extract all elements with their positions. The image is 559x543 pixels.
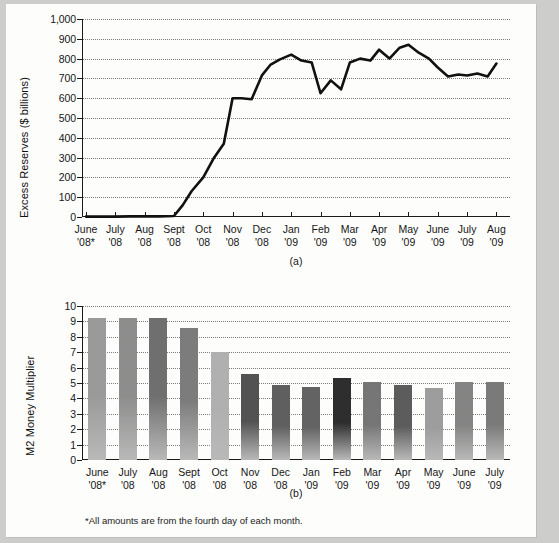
chart-panel-a: Excess Reserves ($ billions) 01002003004…	[6, 4, 536, 276]
x-tick-label: June'08*	[86, 466, 109, 491]
x-tick-label: Mar'09	[341, 223, 359, 248]
x-tick-label: June'09	[426, 223, 449, 248]
x-tick-label: Oct'08	[211, 466, 227, 491]
panel-b-x-tick-labels: June'08*July'08Aug'08Sept'08Oct'08Nov'08…	[6, 284, 536, 514]
x-tick-label: July'09	[458, 223, 477, 248]
x-tick-label: Sept'08	[178, 466, 200, 491]
x-tick-label: July'08	[119, 466, 138, 491]
x-tick-label: Nov'08	[223, 223, 242, 248]
x-tick-label: Apr'09	[371, 223, 387, 248]
figure-card: Excess Reserves ($ billions) 01002003004…	[6, 4, 536, 537]
x-tick-label: Oct'08	[195, 223, 211, 248]
x-tick-label: Feb'09	[311, 223, 329, 248]
panel-a-caption: (a)	[290, 255, 303, 267]
x-tick-label: Sept'08	[163, 223, 185, 248]
x-tick-label: June'08*	[75, 223, 98, 248]
x-tick-label: Feb'09	[333, 466, 351, 491]
x-tick-label: Aug'08	[135, 223, 154, 248]
x-tick-label: July'08	[106, 223, 125, 248]
x-tick-label: Nov'08	[241, 466, 260, 491]
panel-a-x-tick-labels: June'08*July'08Aug'08Sept'08Oct'08Nov'08…	[6, 4, 536, 276]
panel-b-caption: (b)	[290, 487, 303, 499]
x-tick-label: Mar'09	[363, 466, 381, 491]
x-tick-label: June'09	[453, 466, 476, 491]
x-tick-label: July'09	[485, 466, 504, 491]
x-tick-label: Aug'09	[487, 223, 506, 248]
x-tick-label: Apr'09	[395, 466, 411, 491]
chart-panel-b: M2 Money Multiplier 012345678910 June'08…	[6, 284, 536, 514]
figure-footnote: *All amounts are from the fourth day of …	[85, 515, 303, 526]
x-tick-label: Aug'08	[149, 466, 168, 491]
x-tick-label: Jan'09	[303, 466, 320, 491]
x-tick-label: Jan'09	[283, 223, 300, 248]
x-tick-label: Dec'08	[253, 223, 272, 248]
x-tick-label: Dec'08	[271, 466, 290, 491]
x-tick-label: May'09	[399, 223, 419, 248]
x-tick-label: May'09	[424, 466, 444, 491]
